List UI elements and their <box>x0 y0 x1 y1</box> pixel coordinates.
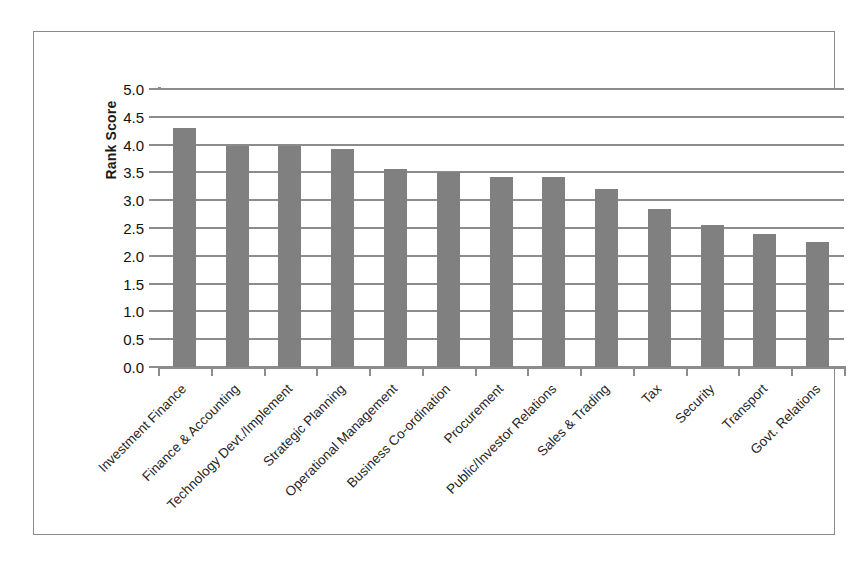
x-axis-tick-mark <box>580 369 582 376</box>
bar[interactable] <box>595 189 618 367</box>
x-axis-tick-mark <box>158 369 160 376</box>
bar[interactable] <box>701 225 724 367</box>
y-axis-tick-mark <box>149 116 159 118</box>
y-axis-tick-label: 4.0 <box>102 137 144 152</box>
y-axis-tick-label: 0.5 <box>102 332 144 347</box>
gridline <box>158 144 844 146</box>
y-axis-tick-label: 5.0 <box>102 82 144 97</box>
bar[interactable] <box>173 128 196 367</box>
y-axis-tick-label: 4.5 <box>102 109 144 124</box>
bar[interactable] <box>806 242 829 367</box>
y-axis-tick-label: 2.5 <box>102 221 144 236</box>
chart-frame: Rank Score 5.04.54.03.53.02.52.01.51.00.… <box>33 31 835 535</box>
y-axis-tick-mark <box>149 88 159 90</box>
bar[interactable] <box>384 169 407 367</box>
y-axis-tick-mark <box>149 366 159 368</box>
y-axis-tick-mark <box>149 199 159 201</box>
y-axis-tick-mark <box>149 283 159 285</box>
gridline <box>158 116 844 118</box>
y-axis-tick-labels: 5.04.54.03.53.02.52.01.51.00.50.0 <box>102 80 144 376</box>
x-axis-tick-mark <box>422 369 424 376</box>
bar[interactable] <box>437 172 460 367</box>
y-axis-tick-mark <box>149 310 159 312</box>
x-axis-tick-mark <box>211 369 213 376</box>
gridline <box>158 88 844 90</box>
y-axis-tick-mark <box>149 171 159 173</box>
x-axis-tick-mark <box>264 369 266 376</box>
bar[interactable] <box>278 146 301 367</box>
chart-figure: Rank Score 5.04.54.03.53.02.52.01.51.00.… <box>0 0 866 561</box>
x-axis-tick-mark <box>686 369 688 376</box>
x-axis-tick-mark <box>369 369 371 376</box>
x-axis-tick-mark <box>791 369 793 376</box>
x-axis-tick-mark <box>738 369 740 376</box>
x-axis-tick-mark <box>316 369 318 376</box>
y-axis-tick-label: 3.5 <box>102 165 144 180</box>
x-axis-tick-mark <box>475 369 477 376</box>
y-axis-tick-mark <box>149 255 159 257</box>
bar[interactable] <box>753 234 776 367</box>
y-axis-tick-label: 1.5 <box>102 276 144 291</box>
y-axis-tick-label: 2.0 <box>102 248 144 263</box>
x-axis-tick-mark <box>527 369 529 376</box>
y-axis-tick-label: 1.0 <box>102 304 144 319</box>
bar[interactable] <box>542 177 565 367</box>
bar[interactable] <box>226 146 249 367</box>
y-axis-tick-mark <box>149 227 159 229</box>
bar[interactable] <box>648 209 671 367</box>
x-axis-tick-mark <box>844 369 846 376</box>
x-axis-tick-mark <box>633 369 635 376</box>
y-axis-tick-mark <box>149 338 159 340</box>
bar[interactable] <box>331 149 354 367</box>
y-axis-tick-label: 0.0 <box>102 360 144 375</box>
y-axis-tick-mark <box>149 144 159 146</box>
plot-area <box>158 89 844 367</box>
y-axis-tick-label: 3.0 <box>102 193 144 208</box>
bar[interactable] <box>490 177 513 367</box>
gridline <box>158 171 844 173</box>
